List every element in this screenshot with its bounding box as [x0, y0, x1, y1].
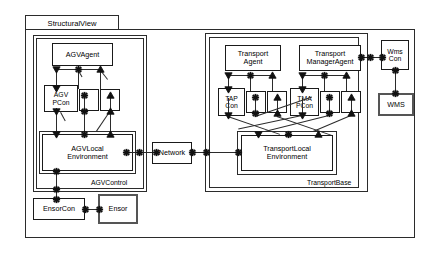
up-triangle-port-tap-slot-right-top[interactable] [273, 93, 282, 102]
down-triangle-port-agv-agent-1[interactable] [52, 65, 61, 74]
star-port-agv-slot-mid-bottom[interactable] [80, 107, 89, 116]
star-port-network-east[interactable] [188, 148, 197, 157]
component-label-agv-agent: AGVAgent [66, 51, 99, 59]
down-triangle-port-tap-con-bottom[interactable] [224, 111, 233, 120]
down-triangle-port-agv-pcon-top[interactable] [52, 84, 61, 93]
star-port-transportlocal-west[interactable] [234, 148, 243, 157]
down-triangle-port-agv-pcon-bottom[interactable] [52, 107, 61, 116]
component-transport-agent[interactable]: Transport Agent [225, 45, 281, 71]
component-label-tma-pcon: PCon [296, 102, 313, 109]
down-triangle-port-tma-pcon-top[interactable] [298, 85, 307, 94]
star-port-ensorcon-north[interactable] [52, 195, 61, 204]
star-port-agvcontrol-south-boundary[interactable] [52, 185, 61, 194]
component-label-network: Network [159, 149, 185, 157]
down-triangle-port-tma-agent-1[interactable] [298, 71, 307, 80]
star-port-tma-slot-mid-bottom[interactable] [325, 109, 334, 118]
star-port-wmscon-south[interactable] [391, 66, 400, 75]
component-agv-local-environment[interactable]: AGVLocal Environment [42, 134, 133, 171]
star-port-network-west[interactable] [152, 148, 161, 157]
component-label-wms: WMS [387, 101, 405, 109]
package-tab-structural-view: StructuralView [25, 15, 119, 30]
down-triangle-port-agvlocal-1[interactable] [52, 130, 61, 139]
component-label-environment: Environment [67, 153, 107, 161]
star-port-tma-slot-mid-top[interactable] [325, 93, 334, 102]
up-triangle-port-tma-slot-right-bottom[interactable] [347, 109, 356, 118]
star-port-agv-agent-2[interactable] [74, 65, 83, 74]
up-triangle-port-agvlocal-3[interactable] [106, 130, 115, 139]
star-port-wmscon-west[interactable] [378, 53, 387, 62]
down-triangle-port-tap-con-top[interactable] [224, 85, 233, 94]
package-label-agv-control: AGVControl [89, 179, 129, 186]
structural-view-diagram: StructuralView AGVControl AGVAgent AGV P… [0, 0, 434, 253]
star-port-agv-slot-mid-top[interactable] [80, 91, 89, 100]
up-triangle-port-tma-slot-right-top[interactable] [347, 93, 356, 102]
star-port-transport-agent-2[interactable] [246, 71, 255, 80]
component-label-wms-con: Con [389, 55, 401, 62]
up-triangle-port-tma-agent-3[interactable] [342, 71, 351, 80]
star-port-tap-slot-mid-top[interactable] [251, 93, 260, 102]
package-title-structural-view: StructuralView [48, 19, 97, 28]
component-label-ensor: Ensor [109, 205, 128, 213]
component-ensor[interactable]: Ensor [98, 194, 138, 224]
component-transport-manager-agent[interactable]: Transport ManagerAgent [299, 45, 361, 71]
star-port-transportlocal-2[interactable] [284, 130, 293, 139]
component-label-wms-upper: Wms [387, 48, 402, 55]
star-port-tma-agent-2[interactable] [320, 71, 329, 80]
star-port-ensorcon-east[interactable] [81, 205, 90, 214]
component-label-agv-pcon-2: PCon [52, 99, 69, 106]
star-port-agvcontrol-east-boundary[interactable] [135, 148, 144, 157]
component-label-agent: Agent [244, 58, 263, 66]
component-label-manager-agent: ManagerAgent [306, 58, 353, 66]
up-triangle-port-agv-slot-right-top[interactable] [106, 91, 115, 100]
star-port-ensor-west[interactable] [95, 205, 104, 214]
star-port-agvlocal-east-inner[interactable] [122, 148, 131, 157]
component-agv-agent[interactable]: AGVAgent [52, 43, 113, 66]
component-label-ensorcon: EnsorCon [43, 205, 75, 213]
component-agv-pcon[interactable]: AGV PCon [44, 85, 78, 112]
component-label-environment-2: Environment [267, 153, 307, 161]
star-port-agvlocal-south[interactable] [52, 167, 61, 176]
up-triangle-port-transportlocal-3[interactable] [314, 130, 323, 139]
up-triangle-port-agv-agent-3[interactable] [96, 65, 105, 74]
star-port-transportbase-west-boundary[interactable] [202, 148, 211, 157]
star-port-transportbase-east-boundary[interactable] [366, 53, 375, 62]
component-transport-local-environment[interactable]: TransportLocal Environment [241, 135, 333, 171]
up-triangle-port-transport-agent-3[interactable] [268, 71, 277, 80]
package-label-transport-base: TransportBase [305, 179, 353, 186]
down-triangle-port-transport-agent-1[interactable] [224, 71, 233, 80]
star-port-tma-east[interactable] [357, 53, 366, 62]
star-port-agvlocal-2[interactable] [80, 130, 89, 139]
down-triangle-port-tma-pcon-bottom[interactable] [298, 111, 307, 120]
up-triangle-port-tap-slot-right-bottom[interactable] [273, 109, 282, 118]
down-triangle-port-transportlocal-1[interactable] [254, 130, 263, 139]
up-triangle-port-agv-slot-right-bottom[interactable] [106, 107, 115, 116]
star-port-wms-north[interactable] [391, 89, 400, 98]
star-port-tap-slot-mid-bottom[interactable] [251, 109, 260, 118]
